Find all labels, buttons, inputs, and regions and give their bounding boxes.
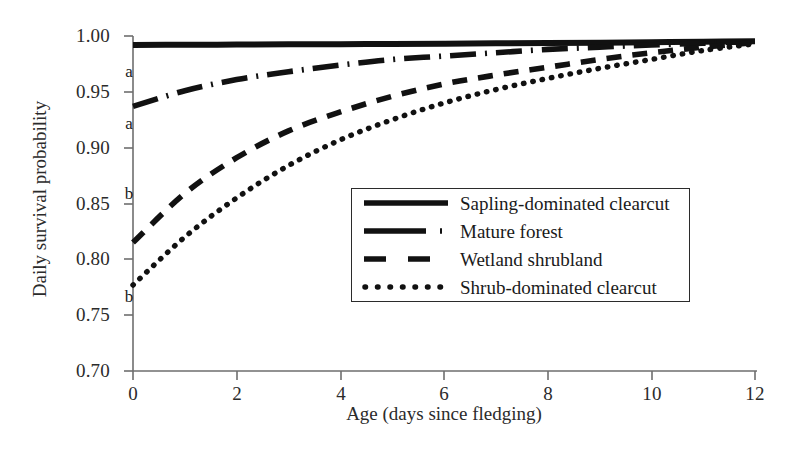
x-axis-ticks xyxy=(133,371,755,380)
group-label-shrub: b xyxy=(119,287,139,307)
x-tick-label-10: 10 xyxy=(632,383,672,405)
legend-label-shrub: Shrub-dominated clearcut xyxy=(460,278,657,297)
y-tick-label-1.00: 1.00 xyxy=(44,25,110,47)
group-label-mature: a xyxy=(119,114,139,134)
legend-item-sapling-dominated-clearcut: Sapling-dominated clearcut xyxy=(352,189,689,217)
x-tick-label-12: 12 xyxy=(735,383,775,405)
x-axis-title: Age (days since fledging) xyxy=(133,403,755,425)
y-tick-label-0.75: 0.75 xyxy=(44,304,110,326)
legend-swatch-dash-dot-line-icon xyxy=(362,221,450,241)
legend-swatch-dotted-line-icon xyxy=(362,277,450,297)
legend-item-shrub-dominated-clearcut: Shrub-dominated clearcut xyxy=(352,273,689,301)
legend-item-wetland-shrubland: Wetland shrubland xyxy=(352,245,689,273)
y-tick-label-0.70: 0.70 xyxy=(44,360,110,382)
legend-swatch-dashed-line-icon xyxy=(362,249,450,269)
x-tick-label-2: 2 xyxy=(217,383,257,405)
legend-label-mature: Mature forest xyxy=(460,222,563,241)
legend: Sapling-dominated clearcut Mature forest… xyxy=(351,188,690,302)
x-tick-label-6: 6 xyxy=(424,383,464,405)
legend-label-sapling: Sapling-dominated clearcut xyxy=(460,194,669,213)
y-tick-label-0.90: 0.90 xyxy=(44,137,110,159)
y-tick-label-0.80: 0.80 xyxy=(44,248,110,270)
series-sapling-dominated-clearcut xyxy=(133,41,755,45)
chart-figure: 1.00 0.95 0.90 0.85 0.80 0.75 0.70 0 2 4… xyxy=(0,0,801,459)
legend-swatch-solid-line-icon xyxy=(362,193,450,213)
legend-label-wetland: Wetland shrubland xyxy=(460,250,603,269)
group-label-wetland: b xyxy=(119,184,139,204)
legend-item-mature-forest: Mature forest xyxy=(352,217,689,245)
y-tick-label-0.95: 0.95 xyxy=(44,81,110,103)
x-tick-label-4: 4 xyxy=(321,383,361,405)
y-axis-title: Daily survival probability xyxy=(29,69,51,329)
x-tick-label-0: 0 xyxy=(113,383,153,405)
x-tick-label-8: 8 xyxy=(528,383,568,405)
group-label-sapling: a xyxy=(119,62,139,82)
y-tick-label-0.85: 0.85 xyxy=(44,193,110,215)
